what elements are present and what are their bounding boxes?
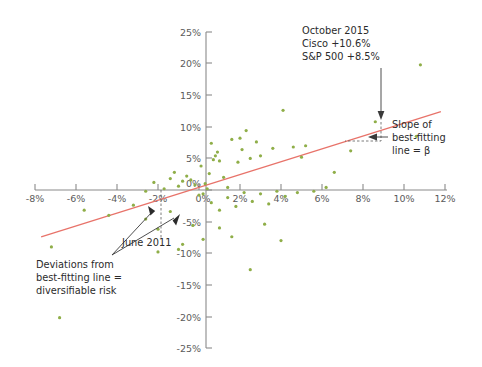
scatter-point [177,248,180,251]
scatter-point [206,187,209,190]
scatter-point [243,191,246,194]
scatter-point [177,185,180,188]
scatter-point [300,156,303,159]
scatter-point [202,238,205,241]
scatter-point [197,193,200,196]
scatter-point [50,245,53,248]
scatter-point [333,171,336,174]
y-tick-label: 25% [180,27,201,38]
scatter-point [214,154,217,157]
x-tick-label: 6% [314,193,329,204]
scatter-point [263,223,266,226]
deviations-annotation-line2: best-fitting line = [36,272,122,283]
scatter-point [249,268,252,271]
scatter-point [107,214,110,217]
scatter-point [292,145,295,148]
scatter-point [185,174,188,177]
scatter-point [218,226,221,229]
y-tick-label: -25% [176,343,201,354]
scatter-point [279,239,282,242]
scatter-point [58,316,61,319]
scatter-point [208,172,211,175]
scatter-point [181,243,184,246]
scatter-point [191,224,194,227]
scatter-point [267,202,270,205]
x-tick-label: 10% [393,193,414,204]
x-tick-label: 8% [355,193,370,204]
scatter-point [251,200,254,203]
scatter-point [202,192,205,195]
scatter-point [181,180,184,183]
deviations-arrow-head-2 [173,214,180,225]
y-tick-label: -10% [176,248,201,259]
scatter-point [255,140,258,143]
y-tick-label: 15% [180,90,201,101]
scatter-point [284,195,287,198]
scatter-point [169,210,172,213]
x-tick-marks [35,184,445,190]
scatter-point [304,144,307,147]
scatter-point [156,250,159,253]
deviations-leader-line-1 [112,212,152,255]
x-tick-label: 2% [232,193,247,204]
scatter-point [189,178,192,181]
deviations-annotation-line3: diversifiable risk [36,285,117,296]
scatter-point [281,109,284,112]
x-tick-label: -4% [108,193,127,204]
scatter-point [216,150,219,153]
scatter-point [199,164,202,167]
best-fit-line [41,112,441,237]
x-tick-label: 12% [434,193,455,204]
x-axis: -8% -6% -4% -2% 0% 2% 4% 6% 8% 10% 12% [26,184,456,204]
scatter-point [210,201,213,204]
scatter-point [218,209,221,212]
october-annotation-line1: October 2015 [302,25,369,36]
scatter-point [132,204,135,207]
y-tick-label: 5% [186,153,201,164]
scatter-point [83,209,86,212]
slope-annotation-line1: Slope of [392,119,432,130]
scatter-point [234,205,237,208]
scatter-point [296,191,299,194]
deviations-arrow-head-1 [148,206,155,215]
deviations-annotation-line1: Deviations from [36,259,114,270]
x-tick-label: 4% [273,193,288,204]
scatter-point [193,183,196,186]
scatter-point [230,235,233,238]
y-tick-label: -20% [176,312,201,323]
scatter-point [275,190,278,193]
october-annotation-line2: Cisco +10.6% [302,38,371,49]
scatter-point [312,190,315,193]
scatter-point [349,149,352,152]
scatter-point [218,159,221,162]
y-tick-label: 20% [180,58,201,69]
scatter-point [222,176,225,179]
october-2015-annotation: October 2015 Cisco +10.6% S&P 500 +8.5% [302,25,384,120]
scatter-point [212,158,215,161]
scatter-point [144,190,147,193]
slope-annotation-line2: best-fitting [392,132,446,143]
slope-annotation-line3: line = β [392,145,430,156]
scatter-point [169,177,172,180]
scatter-point [374,120,377,123]
scatter-point [173,171,176,174]
scatter-point [226,186,229,189]
x-tick-label: -6% [67,193,86,204]
scatter-point [152,181,155,184]
x-tick-label: -8% [26,193,45,204]
october-annotation-line3: S&P 500 +8.5% [302,51,380,62]
scatter-chart: -8% -6% -4% -2% 0% 2% 4% 6% 8% 10% 12% 2… [0,0,482,367]
scatter-point [325,186,328,189]
scatter-point [240,148,243,151]
scatter-point [204,182,207,185]
scatter-point [238,137,241,140]
scatter-point [249,157,252,160]
scatter-point [210,142,213,145]
y-tick-label: -15% [176,280,201,291]
scatter-point [245,129,248,132]
scatter-point [236,161,239,164]
june-annotation-label: June 2011 [121,237,171,248]
scatter-point [259,154,262,157]
scatter-point [259,192,262,195]
y-tick-label: 10% [180,122,201,133]
